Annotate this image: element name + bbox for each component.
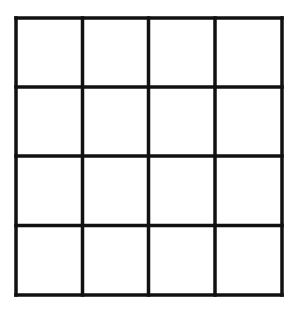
grid-cell-r4-c3 xyxy=(149,226,216,296)
grid-cell-r1-c1 xyxy=(16,18,83,87)
grid-cell-r3-c1 xyxy=(16,156,83,226)
grid-cell-r3-c2 xyxy=(83,156,149,226)
grid-cell-r1-c3 xyxy=(149,18,216,87)
grid-cell-r2-c4 xyxy=(215,87,282,156)
grid-cell-r1-c2 xyxy=(83,18,149,87)
grid-cell-r3-c4 xyxy=(215,156,282,226)
grid-cell-r4-c1 xyxy=(16,226,83,296)
grid-cell-r4-c4 xyxy=(215,226,282,296)
four-by-four-grid xyxy=(0,0,298,312)
grid-cell-r1-c4 xyxy=(215,18,282,87)
grid-diagram xyxy=(0,0,298,312)
grid-cell-r2-c3 xyxy=(149,87,216,156)
grid-cell-r3-c3 xyxy=(149,156,216,226)
grid-cell-r4-c2 xyxy=(83,226,149,296)
grid-cell-r2-c1 xyxy=(16,87,83,156)
grid-cell-r2-c2 xyxy=(83,87,149,156)
